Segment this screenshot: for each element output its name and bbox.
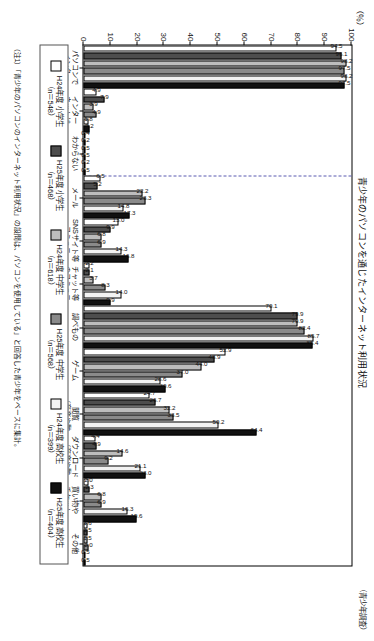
bar[interactable]: 70.1 xyxy=(83,305,271,311)
bar[interactable]: 28.6 xyxy=(83,378,160,384)
bar[interactable]: 33.5 xyxy=(83,414,173,420)
bar[interactable]: 14.6 xyxy=(83,450,122,456)
legend-item-3[interactable]: H24年度 中学生（n＝618） xyxy=(45,229,62,295)
y-axis-tick-mark xyxy=(189,41,190,45)
bar[interactable]: 14.8 xyxy=(83,205,123,211)
bar-value-label: 44.0 xyxy=(195,359,207,366)
bar-value-label: 1.8 xyxy=(84,114,93,121)
bar[interactable]: 50.2 xyxy=(83,421,218,427)
bar[interactable]: 37.0 xyxy=(83,371,182,377)
legend-label-wrap: H25年度 小学生（n＝468） xyxy=(45,160,62,211)
bar-value-label: 0.4 xyxy=(81,128,90,135)
x-axis-category-label: 調べもの xyxy=(70,305,78,348)
legend-label-wrap: H24年度 高校生（n＝399） xyxy=(45,413,62,464)
bar[interactable]: 85.4 xyxy=(83,342,312,348)
y-axis-tick-mark xyxy=(296,41,297,45)
bar[interactable]: 24.7 xyxy=(83,392,149,398)
bar-value-label: 98.2 xyxy=(340,56,352,63)
bar[interactable]: 5.2 xyxy=(83,182,97,188)
x-axis-category-label: ゲーム xyxy=(70,348,78,391)
bar-value-label: 2.3 xyxy=(85,482,94,489)
bar-value-label: 6.8 xyxy=(97,489,106,496)
y-axis-tick-mark xyxy=(323,41,324,45)
bar[interactable]: 79.9 xyxy=(83,312,297,318)
bar[interactable]: 48.9 xyxy=(83,356,214,362)
x-axis-category-label: メール xyxy=(70,175,78,218)
legend-item-6[interactable]: H25年度 高校生（n＝404） xyxy=(45,482,62,548)
bar-value-label: 9.9 xyxy=(105,222,114,229)
bar[interactable]: 8.3 xyxy=(83,284,105,290)
bar[interactable]: 2.3 xyxy=(83,486,89,492)
bar[interactable]: 4.9 xyxy=(83,442,96,448)
legend-label: H25年度 小学生 xyxy=(53,160,62,211)
bar-value-label: 2.2 xyxy=(85,258,94,265)
bar[interactable]: 9.9 xyxy=(83,299,110,305)
bar[interactable]: 0.5 xyxy=(83,559,85,565)
legend-item-1[interactable]: H24年度 小学生（n＝548） xyxy=(45,60,62,126)
y-axis-tick-label: 90 xyxy=(320,32,329,41)
bar[interactable]: 64.4 xyxy=(83,429,256,435)
bar[interactable]: 21.1 xyxy=(83,465,140,471)
bar[interactable]: 22.2 xyxy=(83,190,142,196)
bar[interactable]: 82.4 xyxy=(83,327,304,333)
bar-value-label: 21.1 xyxy=(134,461,146,468)
bar-group-bars: 2.02.36.86.916.319.6 xyxy=(83,478,351,521)
legend-label-wrap: H24年度 中学生（n＝618） xyxy=(45,244,62,295)
y-axis-tick-mark xyxy=(109,41,110,45)
legend-item-2[interactable]: H25年度 小学生（n＝468） xyxy=(45,145,62,211)
bar-group-bars: 2.22.13.78.314.09.9 xyxy=(83,262,351,305)
bar[interactable]: 9.2 xyxy=(83,457,108,463)
bar[interactable]: 16.3 xyxy=(83,508,127,514)
bar-value-label: 14.6 xyxy=(116,446,128,453)
bar-value-label: 97.5 xyxy=(338,78,350,85)
bar[interactable]: 3.7 xyxy=(83,276,93,282)
bar-value-label: 79.9 xyxy=(291,316,303,323)
bar[interactable]: 97.5 xyxy=(83,67,344,73)
legend-sample-size: （n＝468） xyxy=(45,160,54,211)
bar-group-bars: 4.44.914.69.221.123.0 xyxy=(83,435,351,478)
y-axis-tick-label: 30 xyxy=(159,32,168,41)
bar[interactable]: 98.2 xyxy=(83,60,346,66)
bar[interactable]: 52.9 xyxy=(83,348,225,354)
bar[interactable]: 6.9 xyxy=(83,501,101,507)
x-axis-tick-mark xyxy=(79,283,83,284)
bar[interactable]: 4.9 xyxy=(83,88,96,94)
bar-value-label: 26.7 xyxy=(149,395,161,402)
bar[interactable]: 85.7 xyxy=(83,335,313,341)
bar[interactable]: 14.3 xyxy=(83,248,121,254)
legend-sample-size: （n＝548） xyxy=(45,75,54,126)
bar-value-label: 70.1 xyxy=(265,301,277,308)
bar-value-label: 8.3 xyxy=(101,280,110,287)
bar[interactable]: 2.1 xyxy=(83,269,89,275)
bar-group-bars: 24.726.732.233.550.264.4 xyxy=(83,392,351,435)
bar[interactable]: 6.9 xyxy=(83,241,101,247)
bar[interactable]: 94.5 xyxy=(83,45,336,51)
bar-group: 2.22.13.78.314.09.9チャット等のコミュニケーション xyxy=(83,262,351,305)
bar[interactable]: 32.2 xyxy=(83,406,169,412)
bar-group: 13.09.96.86.914.316.8SNSサイト等コミュニケーション xyxy=(83,218,351,261)
legend-label-wrap: H24年度 小学生（n＝548） xyxy=(45,75,62,126)
bar[interactable]: 98.2 xyxy=(83,75,346,81)
bar[interactable]: 96.1 xyxy=(83,52,341,58)
bar-value-label: 32.2 xyxy=(163,403,175,410)
bar[interactable]: 97.5 xyxy=(83,82,344,88)
legend-label: H24年度 中学生 xyxy=(53,244,62,295)
bar-value-label: 2.0 xyxy=(84,475,93,482)
legend-label: H25年度 中学生 xyxy=(53,328,62,379)
bar-value-label: 6.9 xyxy=(97,237,106,244)
x-axis-tick-mark xyxy=(79,500,83,501)
legend-item-5[interactable]: H24年度 高校生（n＝399） xyxy=(45,398,62,464)
bar-value-label: 2.0 xyxy=(84,540,93,547)
chart-survey-note: （青少年調査） xyxy=(357,584,368,633)
legend-label: H25年度 高校生 xyxy=(53,497,62,548)
bar[interactable]: 26.7 xyxy=(83,399,155,405)
bar-value-label: 3.9 xyxy=(89,99,98,106)
legend-sample-size: （n＝404） xyxy=(45,497,54,548)
bar[interactable]: 23.3 xyxy=(83,197,145,203)
legend-item-4[interactable]: H25年度 中学生（n＝568） xyxy=(45,313,62,379)
chart-legend: H24年度 小学生（n＝548）H25年度 小学生（n＝468）H24年度 中学… xyxy=(39,44,68,564)
bar[interactable]: 0.5 xyxy=(83,169,85,175)
bar[interactable]: 79.9 xyxy=(83,320,297,326)
y-axis-tick-label: 60 xyxy=(239,32,248,41)
bar-group-bars: 4.97.93.94.91.82.2 xyxy=(83,88,351,131)
